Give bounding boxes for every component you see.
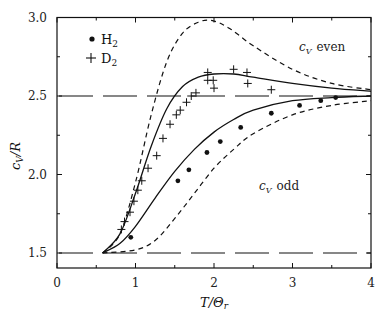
d2-data-point (172, 111, 180, 119)
d2-data-point (121, 218, 129, 226)
h2-data-point (205, 150, 210, 155)
heat-capacity-chart: 012341.52.02.53.0 H2 D2 cVeven cVodd T/Θ… (0, 0, 388, 317)
x-axis-label: T/Θr (200, 295, 229, 311)
x-tick-label: 4 (367, 276, 375, 290)
d2-data-point (244, 79, 252, 87)
y-tick-label: 3.0 (28, 11, 47, 25)
y-tick-label: 2.0 (28, 168, 47, 182)
h2-data-point (269, 111, 274, 116)
solid-theory-curve (103, 74, 371, 253)
legend-dot-marker (89, 36, 94, 41)
dashed-theory-curve (103, 101, 371, 253)
x-tick-label: 0 (53, 276, 61, 290)
legend-h2-label: H2 (101, 32, 118, 49)
classical-limit-lines (59, 96, 371, 253)
d2-data-point (176, 106, 184, 114)
theory-curves (103, 20, 371, 253)
dashed-theory-curve (103, 20, 371, 253)
annotation-cv-even: cVeven (299, 40, 345, 56)
d2-data-point (209, 76, 217, 84)
d2-data-point (230, 65, 238, 73)
h2-data-point (218, 139, 223, 144)
data-points (117, 65, 338, 239)
y-tick-label: 1.5 (28, 246, 47, 260)
h2-data-point (238, 125, 243, 130)
d2-data-point (166, 120, 174, 128)
x-tick-label: 2 (210, 276, 218, 290)
h2-data-point (186, 167, 191, 172)
annotation-cv-odd: cVodd (259, 179, 299, 195)
legend-d2-label: D2 (101, 51, 117, 68)
x-tick-label: 3 (289, 276, 297, 290)
d2-data-point (117, 225, 125, 233)
x-tick-label: 1 (132, 276, 140, 290)
y-axis-label: cV/R (8, 142, 25, 170)
d2-data-point (267, 86, 275, 94)
h2-data-point (318, 98, 323, 103)
legend: H2 D2 (86, 32, 118, 68)
solid-theory-curve (103, 96, 371, 253)
h2-data-point (128, 235, 133, 240)
d2-data-point (159, 134, 167, 142)
h2-data-point (175, 178, 180, 183)
y-tick-label: 2.5 (28, 89, 47, 103)
d2-data-point (183, 98, 191, 106)
h2-data-point (333, 95, 338, 100)
d2-data-point (210, 84, 218, 92)
legend-plus-marker (86, 53, 96, 63)
d2-data-point (153, 152, 161, 160)
h2-data-point (297, 103, 302, 108)
